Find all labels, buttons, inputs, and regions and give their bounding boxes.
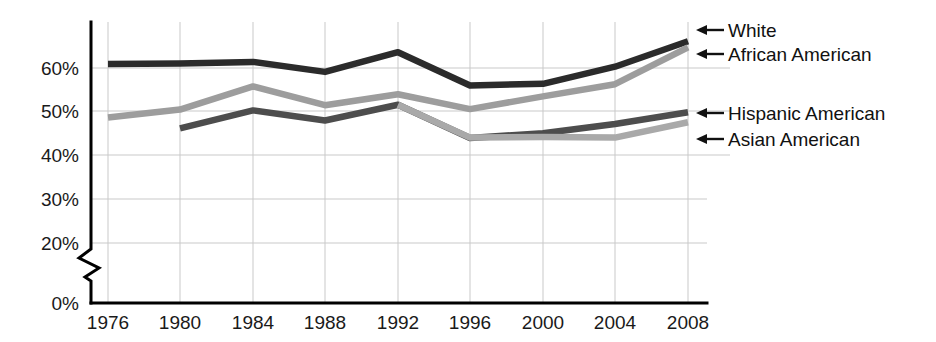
x-tick-labels: 1976 1980 1984 1988 1992 1996 2000 2004 … [87,312,709,333]
x-tick-label-1984: 1984 [232,312,275,333]
x-tick-label-1988: 1988 [304,312,346,333]
legend-label-asian-american: Asian American [728,129,860,150]
legend-item-african-american: African American [696,44,872,65]
y-tick-label-40: 40% [41,145,79,166]
x-tick-label-1996: 1996 [449,312,491,333]
y-tick-label-30: 30% [41,189,79,210]
y-tick-label-60: 60% [41,58,79,79]
y-axis-with-break [79,22,99,303]
y-tick-label-0: 0% [52,293,80,314]
chart-canvas: 60% 50% 40% 30% 20% 0% 1976 1980 1984 19… [0,0,936,342]
left-arrow-icon [696,108,724,118]
legend-gridline-extensions [707,68,730,155]
x-tick-label-2004: 2004 [594,312,637,333]
left-arrow-icon [696,25,724,35]
y-tick-labels: 60% 50% 40% 30% 20% 0% [41,58,79,314]
left-arrow-icon [696,49,724,59]
y-tick-label-20: 20% [41,233,79,254]
x-tick-label-1992: 1992 [377,312,419,333]
legend-item-hispanic-american: Hispanic American [696,103,885,124]
line-chart: 60% 50% 40% 30% 20% 0% 1976 1980 1984 19… [0,0,936,342]
left-arrow-icon [696,134,724,144]
x-tick-label-1980: 1980 [159,312,201,333]
legend-item-white: White [696,20,777,41]
legend-label-white: White [728,20,777,41]
legend-label-african-american: African American [728,44,872,65]
x-tick-label-2008: 2008 [667,312,709,333]
legend-label-hispanic-american: Hispanic American [728,103,885,124]
legend: White African American Hispanic American [696,20,885,150]
x-tick-label-2000: 2000 [522,312,564,333]
y-tick-label-50: 50% [41,101,79,122]
x-tick-label-1976: 1976 [87,312,129,333]
legend-item-asian-american: Asian American [696,129,860,150]
